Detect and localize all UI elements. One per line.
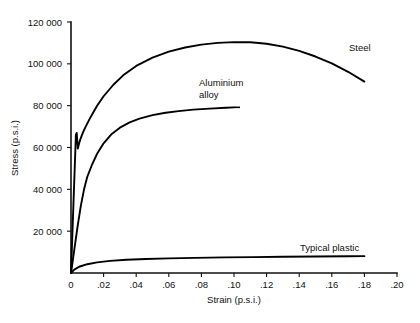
x-axis-tick-labels: 0.02.04.06.08.10.12.14.16.18.20 [68,279,403,290]
y-tick-label: 100 000 [28,58,62,69]
x-tick-label: .02 [97,279,110,290]
chart-canvas: 20 00040 00060 00080 000100 000120 000 0… [0,0,420,323]
x-tick-label: .08 [195,279,208,290]
x-tick-label: .20 [390,279,403,290]
x-tick-label: .06 [162,279,175,290]
series-line-typical-plastic [71,256,364,273]
y-axis-tick-labels: 20 00040 00060 00080 000100 000120 000 [28,17,62,237]
x-tick-label: 0 [68,279,73,290]
y-tick-label: 20 000 [33,226,62,237]
x-tick-label: .14 [293,279,306,290]
annotation-steel: Steel [349,42,371,53]
x-tick-label: .10 [227,279,240,290]
y-tick-label: 40 000 [33,184,62,195]
y-tick-label: 60 000 [33,142,62,153]
annotation-aluminium-alloy-line2: alloy [199,89,219,100]
series-line-aluminium-alloy [71,107,234,273]
x-axis-title: Strain (p.s.i.) [207,294,261,305]
x-tick-label: .12 [260,279,273,290]
annotation-aluminium-alloy-line1: Aluminium [199,77,243,88]
x-tick-label: .18 [358,279,371,290]
annotation-typical-plastic: Typical plastic [300,242,359,253]
y-tick-label: 120 000 [28,17,62,28]
y-tick-label: 80 000 [33,100,62,111]
x-tick-label: .04 [130,279,143,290]
y-axis-title: Stress (p.s.i.) [9,120,20,176]
stress-strain-chart: 20 00040 00060 00080 000100 000120 000 0… [0,0,420,323]
x-tick-label: .16 [325,279,338,290]
